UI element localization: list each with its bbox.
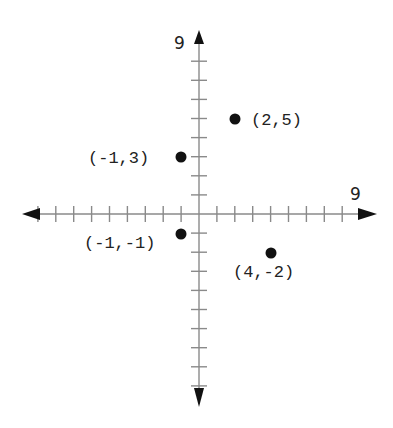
point-4-neg2 — [266, 248, 277, 259]
data-points — [176, 114, 277, 259]
point-neg1-neg1 — [176, 229, 187, 240]
x-axis-max-label: 9 — [350, 184, 361, 204]
arrow-up-icon — [194, 30, 204, 44]
point-label-neg1-3: (-1,3) — [88, 149, 149, 168]
coordinate-plane: 9 9 (2,5) (-1,3) (-1,-1) (4,-2) — [0, 0, 393, 428]
point-label-neg1-neg1: (-1,-1) — [84, 234, 155, 253]
point-2-5 — [230, 114, 241, 125]
point-neg1-3 — [176, 152, 187, 163]
point-label-4-neg2: (4,-2) — [233, 263, 294, 282]
y-axis-max-label: 9 — [174, 33, 185, 53]
point-label-2-5: (2,5) — [251, 111, 302, 130]
arrow-right-icon — [358, 208, 377, 220]
axes — [30, 38, 368, 398]
arrow-left-icon — [22, 208, 40, 220]
tick-marks — [38, 61, 342, 386]
arrow-down-icon — [194, 388, 204, 407]
